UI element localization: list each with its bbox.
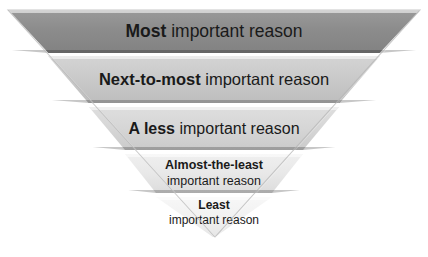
pyramid-level-5-text: Leastimportant reason bbox=[156, 197, 272, 227]
pyramid-level-1[interactable]: Most important reason bbox=[8, 10, 420, 53]
pyramid-level-5-rest: important reason bbox=[169, 213, 259, 227]
pyramid-level-1-rest: important reason bbox=[166, 21, 302, 41]
pyramid-level-1-emphasis: Most bbox=[125, 21, 166, 41]
pyramid-level-3-emphasis: A less bbox=[128, 120, 175, 137]
pyramid-level-2-top-bevel bbox=[48, 56, 380, 59]
pyramid-level-1-text: Most important reason bbox=[8, 21, 420, 42]
pyramid-level-2[interactable]: Next-to-most important reason bbox=[48, 56, 380, 103]
inverted-pyramid-diagram: Most important reason Next-to-most impor… bbox=[0, 0, 428, 257]
pyramid-level-2-emphasis: Next-to-most bbox=[99, 70, 201, 88]
pyramid-level-4-emphasis: Almost-the-least bbox=[165, 158, 263, 172]
pyramid-level-2-bottom-bevel bbox=[48, 100, 380, 103]
pyramid-level-4[interactable]: Almost-the-leastimportant reason bbox=[125, 154, 303, 193]
pyramid-level-1-top-bevel bbox=[8, 10, 420, 13]
pyramid-level-3-bottom-bevel bbox=[89, 147, 339, 150]
pyramid-level-3-text: A less important reason bbox=[89, 119, 339, 139]
pyramid-level-5-emphasis: Least bbox=[198, 198, 229, 212]
pyramid-level-3-top-bevel bbox=[89, 107, 339, 110]
pyramid-level-4-rest: important reason bbox=[167, 174, 261, 188]
pyramid-level-4-text: Almost-the-leastimportant reason bbox=[125, 158, 303, 189]
pyramid-level-3[interactable]: A less important reason bbox=[89, 107, 339, 150]
pyramid-level-2-rest: important reason bbox=[201, 70, 329, 88]
pyramid-level-3-rest: important reason bbox=[175, 120, 300, 137]
pyramid-level-4-bottom-bevel bbox=[125, 190, 303, 193]
pyramid-level-4-top-bevel bbox=[125, 154, 303, 157]
pyramid-level-5[interactable]: Leastimportant reason bbox=[156, 197, 272, 237]
pyramid-level-2-text: Next-to-most important reason bbox=[48, 69, 380, 89]
pyramid-level-1-bottom-bevel bbox=[8, 50, 420, 53]
